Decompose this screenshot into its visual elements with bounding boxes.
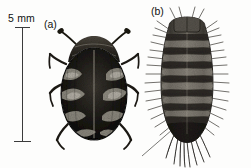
figure-plate: 5 mm (a) (b) xyxy=(0,0,251,168)
beetle-elytra xyxy=(61,48,127,142)
larva-body xyxy=(161,16,214,143)
larva-illustration xyxy=(140,4,251,168)
scale-bar-label: 5 mm xyxy=(8,12,35,24)
scale-bar-bottom-cap xyxy=(14,141,31,142)
panel-a-beetle xyxy=(48,16,140,156)
beetle-illustration xyxy=(48,16,140,156)
panel-b-larva xyxy=(140,4,251,168)
scale-bar-line xyxy=(22,27,23,142)
scale-bar: 5 mm xyxy=(0,0,48,168)
